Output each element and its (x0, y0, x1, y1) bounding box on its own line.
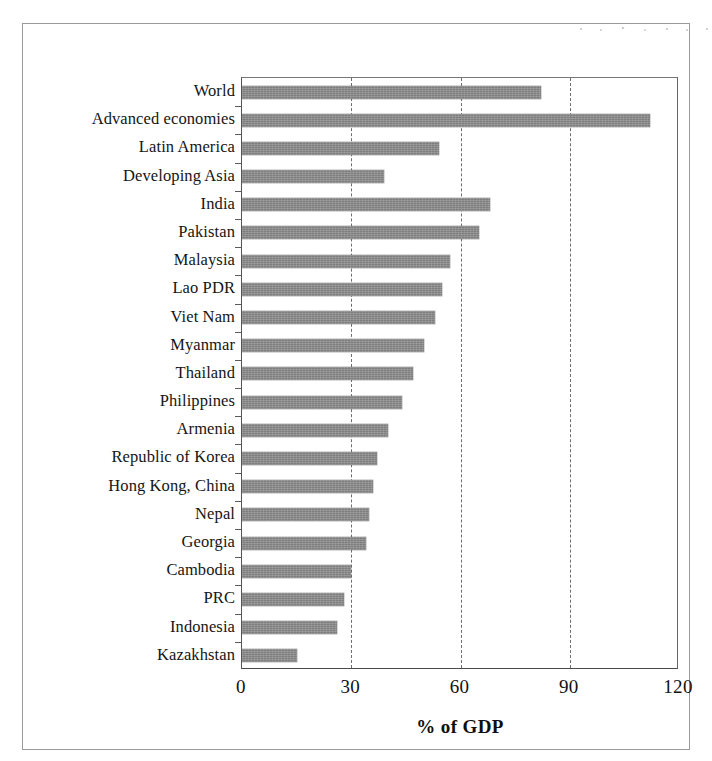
category-label: Advanced economies (23, 105, 235, 133)
bar (242, 396, 402, 409)
category-label: Myanmar (23, 331, 235, 359)
category-label: Republic of Korea (23, 443, 235, 471)
bar-row (242, 529, 677, 557)
bar (242, 649, 297, 662)
bar (242, 593, 344, 606)
category-label: World (23, 77, 235, 105)
bar-row (242, 360, 677, 388)
category-tick (235, 557, 242, 558)
category-tick (235, 585, 242, 586)
bar-row (242, 388, 677, 416)
category-label: Lao PDR (23, 274, 235, 302)
category-label: Viet Nam (23, 303, 235, 331)
category-tick (235, 416, 242, 417)
bar (242, 537, 366, 550)
category-label: Cambodia (23, 556, 235, 584)
category-label: Armenia (23, 415, 235, 443)
bar (242, 621, 337, 634)
bar (242, 86, 541, 99)
category-tick (235, 614, 242, 615)
bar (242, 424, 388, 437)
x-tick-label-60: 60 (450, 676, 470, 698)
category-tick (235, 163, 242, 164)
bar-row (242, 557, 677, 585)
category-tick (235, 360, 242, 361)
bar (242, 311, 435, 324)
category-label: Hong Kong, China (23, 472, 235, 500)
category-label: Philippines (23, 387, 235, 415)
bar-row (242, 444, 677, 472)
category-tick (235, 304, 242, 305)
bar-row (242, 106, 677, 134)
bar-row (242, 78, 677, 106)
bar (242, 480, 373, 493)
category-label: Pakistan (23, 218, 235, 246)
bar-row (242, 134, 677, 162)
category-tick (235, 388, 242, 389)
category-label: Thailand (23, 359, 235, 387)
bar-row (242, 501, 677, 529)
bar-row (242, 585, 677, 613)
bar (242, 114, 650, 127)
bar (242, 339, 424, 352)
bar (242, 198, 490, 211)
category-tick (235, 473, 242, 474)
category-tick (235, 134, 242, 135)
category-tick (235, 191, 242, 192)
category-label: Indonesia (23, 613, 235, 641)
bar (242, 170, 384, 183)
category-tick (235, 275, 242, 276)
bar (242, 142, 439, 155)
bar (242, 283, 442, 296)
category-label: Nepal (23, 500, 235, 528)
bar-row (242, 304, 677, 332)
bar-row (242, 642, 677, 670)
category-label: Developing Asia (23, 162, 235, 190)
bar-row (242, 219, 677, 247)
category-tick (235, 444, 242, 445)
bar-row (242, 191, 677, 219)
bar-row (242, 163, 677, 191)
bar-row (242, 416, 677, 444)
category-label: PRC (23, 584, 235, 612)
category-label: Malaysia (23, 246, 235, 274)
category-tick (235, 529, 242, 530)
x-tick-label-30: 30 (340, 676, 360, 698)
bar-row (242, 332, 677, 360)
category-tick (235, 106, 242, 107)
bar (242, 565, 351, 578)
category-tick (235, 247, 242, 248)
figure-frame: WorldAdvanced economiesLatin AmericaDeve… (22, 23, 690, 750)
bar-row (242, 275, 677, 303)
category-label: India (23, 190, 235, 218)
category-tick (235, 332, 242, 333)
x-axis-title: % of GDP (416, 716, 504, 738)
bar (242, 452, 377, 465)
category-label: Georgia (23, 528, 235, 556)
plot-area (241, 77, 678, 669)
bar (242, 226, 479, 239)
category-axis-labels: WorldAdvanced economiesLatin AmericaDeve… (23, 77, 235, 669)
bar (242, 255, 450, 268)
category-tick (235, 501, 242, 502)
bar-series (242, 78, 677, 668)
bar (242, 508, 369, 521)
category-tick (235, 219, 242, 220)
bar-row (242, 614, 677, 642)
category-label: Latin America (23, 133, 235, 161)
category-tick (235, 642, 242, 643)
scan-artifact (575, 26, 712, 34)
x-tick-label-90: 90 (559, 676, 579, 698)
bar (242, 367, 413, 380)
x-tick-label-120: 120 (663, 676, 692, 698)
category-label: Kazakhstan (23, 641, 235, 669)
bar-row (242, 247, 677, 275)
bar-row (242, 473, 677, 501)
x-tick-label-0: 0 (236, 676, 246, 698)
